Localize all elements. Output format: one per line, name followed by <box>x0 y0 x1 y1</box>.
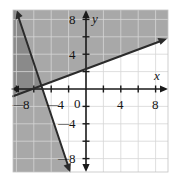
y-axis-label: y <box>90 11 98 26</box>
y-tick-label-neg4: 4 <box>69 116 76 131</box>
x-axis-label: x <box>153 68 160 83</box>
x-tick-label-neg8: 8 <box>23 97 30 112</box>
y-tick-label-pos4: 4 <box>69 47 76 62</box>
x-tick-label-neg4: 4 <box>58 97 65 112</box>
x-tick-label-pos8: 8 <box>152 97 159 112</box>
origin-label-zero: 0 <box>74 96 81 111</box>
y-tick-label-pos8: 8 <box>69 12 76 27</box>
x-tick-label-pos4: 4 <box>117 97 124 112</box>
y-tick-label-neg8: 8 <box>69 151 76 166</box>
graph-canvas: — 8 — 4 0 4 8 8 4 — 4 — 8 y x <box>0 0 175 179</box>
inequality-graph-figure: — 8 — 4 0 4 8 8 4 — 4 — 8 y x <box>0 0 175 179</box>
